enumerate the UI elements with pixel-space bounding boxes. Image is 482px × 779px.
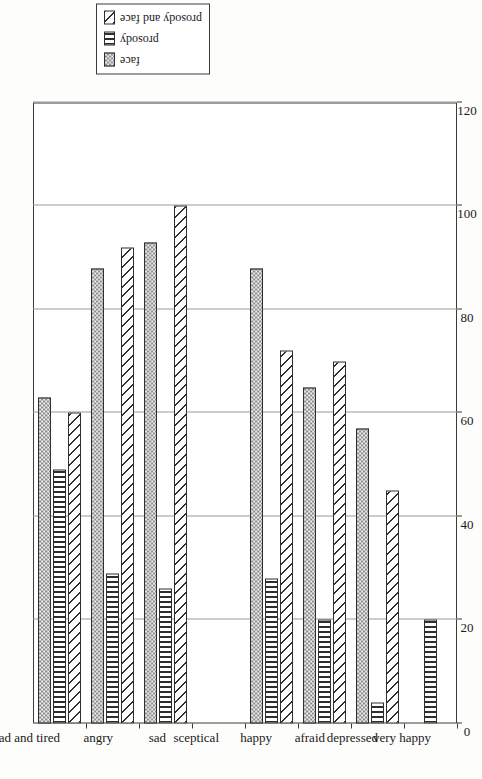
axis-tick-label: 40: [447, 516, 482, 532]
category-label: very happy: [372, 729, 430, 745]
category-tick: [298, 723, 299, 728]
category-label: afraid: [294, 729, 324, 745]
gridline: [33, 205, 457, 206]
category-label: angry: [83, 729, 113, 745]
bar-face-sad: [144, 242, 157, 723]
axis-tick-label: 120: [447, 102, 482, 118]
bar-face-afraid: [303, 387, 316, 723]
axis-tick-label: 0: [447, 723, 482, 739]
gridline: [33, 101, 457, 102]
bar-prosody-depressed: [371, 702, 384, 723]
bar-prosody-and-face-afraid: [333, 361, 346, 723]
category-label: happy: [240, 729, 272, 745]
category-label: sceptical: [173, 729, 218, 745]
category-tick: [404, 723, 405, 728]
bar-prosody-happy: [265, 578, 278, 723]
axis-tick-label: 20: [447, 620, 482, 636]
category-tick: [457, 723, 458, 728]
category-label: depressed: [326, 729, 377, 745]
legend-swatch-prosody: [104, 32, 115, 46]
category-label: sad: [148, 729, 165, 745]
bar-prosody-and-face-depressed: [386, 490, 399, 723]
bar-face-angry: [91, 268, 104, 723]
chart-figure: % correct 020406080100120 sad and tireda…: [0, 0, 482, 779]
bar-prosody-and-face-sad-and-tired: [68, 413, 81, 724]
legend-label: prosody and face: [120, 10, 202, 25]
legend-item: prosody and face: [104, 10, 202, 25]
bar-prosody-and-face-sad: [174, 206, 187, 724]
category-tick: [192, 723, 193, 728]
legend-swatch-face: [104, 53, 115, 67]
legend: faceprosodyprosody and face: [96, 3, 210, 74]
legend-item: face: [104, 52, 140, 67]
legend-label: prosody: [120, 31, 159, 46]
category-tick: [86, 723, 87, 728]
bar-prosody-sad: [159, 588, 172, 723]
bar-face-sad-and-tired: [38, 397, 51, 723]
bar-prosody-and-face-angry: [121, 247, 134, 723]
bar-prosody-angry: [106, 573, 119, 723]
category-tick: [351, 723, 352, 728]
rotated-chart-stage: % correct 020406080100120 sad and tireda…: [0, 0, 482, 779]
legend-item: prosody: [104, 31, 159, 46]
axis-tick-label: 100: [447, 206, 482, 222]
bar-prosody-sad-and-tired: [53, 469, 66, 723]
bar-face-depressed: [356, 428, 369, 723]
bar-face-happy: [250, 268, 263, 723]
category-label: sad and tired: [0, 729, 60, 745]
bar-prosody-afraid: [318, 620, 331, 724]
bar-prosody-very-happy: [424, 620, 437, 724]
legend-swatch-prosody-and-face: [104, 11, 115, 25]
category-tick: [139, 723, 140, 728]
bar-prosody-and-face-happy: [280, 350, 293, 723]
category-tick: [245, 723, 246, 728]
axis-tick-label: 80: [447, 309, 482, 325]
legend-label: face: [120, 52, 140, 67]
axis-tick-label: 60: [447, 413, 482, 429]
